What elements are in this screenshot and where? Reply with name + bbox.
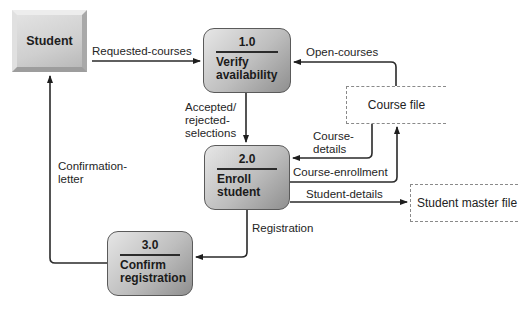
process-name: Enroll student <box>217 173 260 199</box>
data-store-course-file: Course file <box>346 86 446 124</box>
process-number: 3.0 <box>108 238 192 252</box>
process-enroll-student: 2.0 Enroll student <box>204 145 290 210</box>
flow-label-line: Course- <box>313 130 354 143</box>
entity-label: Student <box>26 34 73 48</box>
flow-label-course-details: Course- details <box>313 130 354 156</box>
process-divider <box>216 51 278 53</box>
flow-label-requested-courses: Requested-courses <box>92 45 192 58</box>
process-divider <box>217 168 277 170</box>
flow-label-student-details: Student-details <box>306 188 383 201</box>
flow-label-line: Accepted/ <box>185 101 236 114</box>
flow-label-line: details <box>313 143 354 156</box>
flow-label-line: rejected- <box>185 114 236 127</box>
process-divider <box>120 254 180 256</box>
process-name: Confirm registration <box>120 259 186 285</box>
process-verify-availability: 1.0 Verify availability <box>203 28 291 93</box>
flow-open-courses <box>294 62 396 86</box>
flow-label-accepted-rejected-selections: Accepted/ rejected- selections <box>185 101 236 140</box>
flow-label-line: selections <box>185 127 236 140</box>
flow-label-registration: Registration <box>252 222 313 235</box>
process-number: 1.0 <box>204 35 290 49</box>
flow-label-open-courses: Open-courses <box>306 46 378 59</box>
process-name-line: student <box>217 186 260 199</box>
flow-label-course-enrollment: Course-enrollment <box>293 166 388 179</box>
process-name-line: registration <box>120 272 186 285</box>
flow-registration <box>196 210 247 257</box>
external-entity-student: Student <box>12 10 87 72</box>
flow-label-line: Confirmation- <box>58 160 127 173</box>
store-label: Student master file <box>417 196 517 210</box>
flow-label-confirmation-letter: Confirmation- letter <box>58 160 127 186</box>
store-label: Course file <box>368 98 425 112</box>
data-store-student-master-file: Student master file <box>410 184 518 222</box>
process-number: 2.0 <box>205 152 289 166</box>
flow-label-line: letter <box>58 173 127 186</box>
process-name: Verify availability <box>216 56 277 82</box>
process-confirm-registration: 3.0 Confirm registration <box>107 231 193 296</box>
process-name-line: availability <box>216 69 277 82</box>
